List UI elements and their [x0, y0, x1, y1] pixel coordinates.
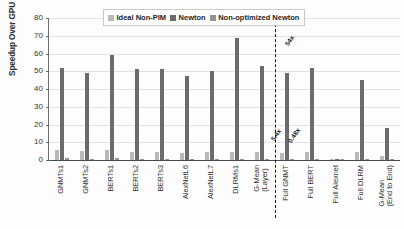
bar — [305, 152, 309, 160]
legend-label: Newton — [179, 13, 206, 22]
legend-label: Ideal Non-PIM — [117, 13, 167, 22]
bar — [365, 159, 369, 160]
legend-item: Ideal Non-PIM — [108, 13, 166, 22]
bar — [60, 68, 64, 160]
x-axis-tick-label: G-Mean(Layer) — [253, 165, 269, 192]
bar — [210, 71, 214, 160]
x-axis-label-slot: BERTs1 — [98, 163, 123, 229]
bar — [90, 159, 94, 161]
legend-swatch-icon — [108, 15, 114, 21]
x-axis-tick-label: AlexNetL7 — [207, 165, 215, 199]
bar — [240, 159, 244, 160]
x-axis-tick-label: Full BERT — [307, 165, 315, 199]
speedup-bar-chart: Speedup Over GPU 01020304050607080 5.4x5… — [0, 0, 404, 229]
y-axis-tick-mark — [46, 160, 49, 161]
bar — [160, 69, 164, 160]
x-axis-label-slot: G-Mean(End to End) — [374, 163, 399, 229]
plot-area: 01020304050607080 5.4x54x0.48x — [48, 18, 400, 161]
y-axis-tick-label: 40 — [17, 85, 43, 93]
bar-series-container — [49, 18, 400, 160]
x-axis-label-slot: Full Alexnet — [324, 163, 349, 229]
bar — [155, 152, 159, 160]
x-axis-label-slot: AlexNetL6 — [173, 163, 198, 229]
x-axis-label-slot: AlexNetL7 — [198, 163, 223, 229]
bar-group — [49, 18, 74, 160]
bar — [390, 159, 394, 160]
bar — [360, 80, 364, 160]
bar — [180, 153, 184, 160]
bar — [285, 73, 289, 160]
bar — [165, 159, 169, 160]
x-axis-label-slot: Full BERT — [299, 163, 324, 229]
x-axis-label-slot: G-Mean(Layer) — [249, 163, 274, 229]
bar — [340, 159, 344, 160]
bar — [105, 150, 109, 160]
x-axis-tick-label: BERTs1 — [107, 165, 115, 192]
legend-item: Newton — [170, 13, 206, 22]
bar — [185, 76, 189, 160]
y-axis-tick-label: 20 — [17, 121, 43, 129]
x-axis-tick-label: Full GNMT — [282, 165, 290, 201]
bar — [190, 159, 194, 160]
bar-group — [325, 18, 350, 160]
bar-group — [149, 18, 174, 160]
y-axis-tick-label: 80 — [17, 14, 43, 22]
bar — [265, 159, 269, 160]
legend-swatch-icon — [170, 15, 176, 21]
bar-group — [225, 18, 250, 160]
bar-group — [199, 18, 224, 160]
x-axis-tick-label: Full DLRM — [357, 165, 365, 200]
x-axis-tick-label: Full Alexnet — [332, 165, 340, 203]
bar-group — [124, 18, 149, 160]
bar — [85, 73, 89, 160]
legend-item: Non-optimized Newton — [210, 13, 300, 22]
x-axis-tick-label: G-Mean(End to End) — [378, 165, 394, 207]
x-axis-label-slot: BERTs2 — [123, 163, 148, 229]
bar — [310, 68, 314, 160]
bar — [215, 159, 219, 160]
x-axis-tick-label: BERTs3 — [157, 165, 165, 192]
bar — [330, 159, 334, 160]
x-axis-tick-label: GNMTs2 — [82, 165, 90, 194]
bar-group — [300, 18, 325, 160]
bar — [290, 159, 294, 160]
bar — [110, 55, 114, 160]
bar-group — [74, 18, 99, 160]
chart-legend: Ideal Non-PIMNewtonNon-optimized Newton — [103, 9, 305, 26]
bar — [205, 152, 209, 160]
bar-group — [99, 18, 124, 160]
bar — [230, 152, 234, 160]
y-axis-tick-label: 50 — [17, 67, 43, 75]
bar — [65, 158, 69, 160]
bar — [260, 66, 264, 160]
bar-group — [350, 18, 375, 160]
bar — [335, 159, 339, 160]
y-axis-tick-label: 70 — [17, 32, 43, 40]
x-axis-tick-label: DLRMs1 — [232, 165, 240, 194]
x-axis-labels: GNMTs1GNMTs2BERTs1BERTs2BERTs3AlexNetL6A… — [48, 163, 399, 229]
bar — [235, 38, 239, 160]
bar — [115, 158, 119, 160]
y-axis-tick-label: 10 — [17, 138, 43, 146]
bar-group — [375, 18, 400, 160]
bar — [80, 151, 84, 160]
bar — [280, 153, 284, 160]
bar — [380, 156, 384, 160]
x-axis-label-slot: DLRMs1 — [224, 163, 249, 229]
bar — [55, 150, 59, 160]
legend-swatch-icon — [210, 15, 216, 21]
x-axis-label-slot: Full DLRM — [349, 163, 374, 229]
bar — [355, 152, 359, 160]
y-axis-tick-label: 60 — [17, 50, 43, 58]
x-axis-tick-label: GNMTs1 — [57, 165, 65, 194]
bar — [140, 159, 144, 160]
x-axis-label-slot: GNMTs2 — [73, 163, 98, 229]
x-axis-label-slot: BERTs3 — [148, 163, 173, 229]
x-axis-tick-label: BERTs2 — [132, 165, 140, 192]
bar-group — [174, 18, 199, 160]
y-axis-tick-label: 0 — [17, 156, 43, 164]
x-axis-tick-label: AlexNetL6 — [182, 165, 190, 199]
x-axis-label-slot: Full GNMT — [274, 163, 299, 229]
bar — [135, 69, 139, 160]
bar — [130, 152, 134, 160]
